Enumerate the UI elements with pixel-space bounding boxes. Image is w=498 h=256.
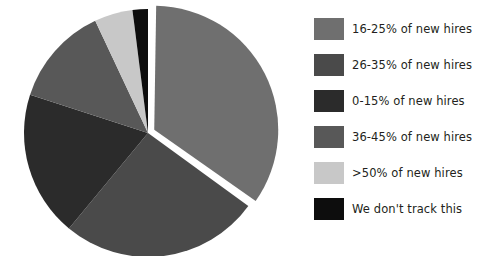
pie-slice-group bbox=[24, 6, 278, 256]
chart-legend: 16-25% of new hires26-35% of new hires0-… bbox=[314, 18, 498, 234]
legend-color-swatch bbox=[314, 18, 344, 40]
pie-chart-svg bbox=[8, 0, 293, 256]
legend-item[interactable]: 26-35% of new hires bbox=[314, 54, 498, 76]
pie-chart-figure: 16-25% of new hires26-35% of new hires0-… bbox=[0, 0, 498, 256]
legend-item-label: 0-15% of new hires bbox=[352, 94, 465, 108]
legend-item[interactable]: 36-45% of new hires bbox=[314, 126, 498, 148]
legend-color-swatch bbox=[314, 126, 344, 148]
legend-item-label: 36-45% of new hires bbox=[352, 130, 472, 144]
legend-item-label: >50% of new hires bbox=[352, 166, 463, 180]
legend-color-swatch bbox=[314, 54, 344, 76]
legend-color-swatch bbox=[314, 198, 344, 220]
legend-item[interactable]: We don't track this bbox=[314, 198, 498, 220]
legend-item-label: 16-25% of new hires bbox=[352, 22, 472, 36]
legend-color-swatch bbox=[314, 162, 344, 184]
legend-item[interactable]: 16-25% of new hires bbox=[314, 18, 498, 40]
legend-color-swatch bbox=[314, 90, 344, 112]
legend-item-label: 26-35% of new hires bbox=[352, 58, 472, 72]
legend-item-label: We don't track this bbox=[352, 202, 462, 216]
legend-item[interactable]: 0-15% of new hires bbox=[314, 90, 498, 112]
pie-chart-plot-area bbox=[8, 0, 293, 256]
legend-item[interactable]: >50% of new hires bbox=[314, 162, 498, 184]
